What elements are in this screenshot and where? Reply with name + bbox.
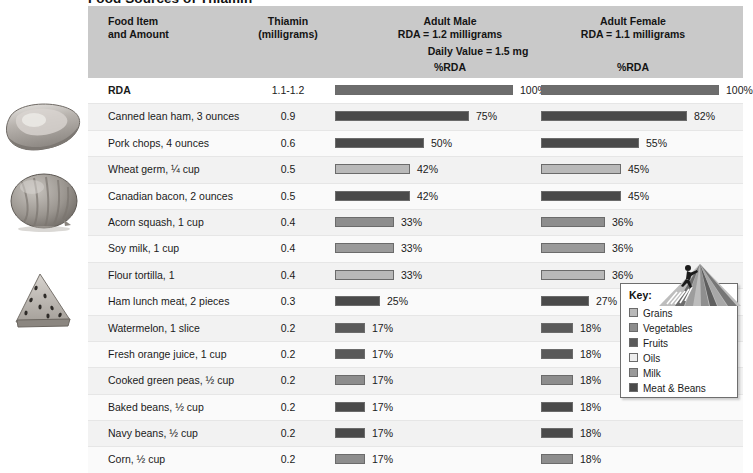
header-food-item-line2: and Amount xyxy=(108,28,169,40)
cell-male-rda: 17% xyxy=(335,342,535,367)
header-adult-female: Adult Female RDA = 1.1 milligrams xyxy=(528,15,738,40)
legend-label: Vegetables xyxy=(643,321,693,336)
pork-chop-image xyxy=(4,100,84,156)
cell-female-rda: 45% xyxy=(541,157,741,182)
legend-swatch-icon xyxy=(629,353,638,362)
bar-male xyxy=(335,217,394,227)
cell-thiamin-mg: 0.5 xyxy=(228,157,348,182)
legend-title: Key: xyxy=(629,289,652,301)
bar-female xyxy=(541,270,605,280)
header-adult-male-line2: RDA = 1.2 milligrams xyxy=(398,28,502,40)
cell-thiamin-mg: 1.1-1.2 xyxy=(228,78,348,103)
cell-food-item: Acorn squash, 1 cup xyxy=(108,210,204,235)
cell-food-item: Corn, ½ cup xyxy=(108,447,165,472)
cell-female-rda: 36% xyxy=(541,210,741,235)
header-daily-value: Daily Value = 1.5 mg xyxy=(263,45,693,58)
pct-male: 17% xyxy=(372,368,393,393)
pct-female: 18% xyxy=(580,316,601,341)
cell-food-item: RDA xyxy=(108,78,131,103)
cell-thiamin-mg: 0.2 xyxy=(228,316,348,341)
cell-male-rda: 17% xyxy=(335,421,535,446)
pct-male: 17% xyxy=(372,421,393,446)
cell-food-item: Wheat germ, ¼ cup xyxy=(108,157,200,182)
cell-male-rda: 33% xyxy=(335,236,535,261)
bar-female xyxy=(541,296,589,306)
cell-thiamin-mg: 0.4 xyxy=(228,236,348,261)
table-row: Canned lean ham, 3 ounces0.975%82% xyxy=(88,103,743,129)
pct-male: 17% xyxy=(372,342,393,367)
pct-female: 18% xyxy=(580,342,601,367)
bar-male xyxy=(335,296,380,306)
pct-female: 45% xyxy=(628,157,649,182)
cell-male-rda: 42% xyxy=(335,157,535,182)
bar-female xyxy=(541,349,573,359)
legend-swatch-icon xyxy=(629,383,638,392)
bar-female xyxy=(541,217,605,227)
cell-male-rda: 17% xyxy=(335,395,535,420)
mypyramid-logo-icon xyxy=(657,262,743,310)
cell-male-rda: 33% xyxy=(335,263,535,288)
legend-swatch-icon xyxy=(629,308,638,317)
header-food-item: Food Item and Amount xyxy=(108,15,238,40)
header-adult-male: Adult Male RDA = 1.2 milligrams xyxy=(350,15,550,40)
bar-female xyxy=(541,375,573,385)
pct-male: 17% xyxy=(372,447,393,472)
bar-male xyxy=(335,164,410,174)
cell-thiamin-mg: 0.2 xyxy=(228,368,348,393)
cell-thiamin-mg: 0.2 xyxy=(228,342,348,367)
table-row: Soy milk, 1 cup0.433%36% xyxy=(88,235,743,261)
acorn-squash-image xyxy=(4,170,84,232)
bar-female xyxy=(541,164,621,174)
header-adult-male-line1: Adult Male xyxy=(423,15,476,27)
header-thiamin: Thiamin (milligrams) xyxy=(228,15,348,40)
food-photo-column xyxy=(0,96,92,328)
table-header: Food Item and Amount Thiamin (milligrams… xyxy=(88,6,743,78)
pct-male: 42% xyxy=(417,157,438,182)
cell-thiamin-mg: 0.4 xyxy=(228,210,348,235)
bar-male xyxy=(335,454,365,464)
bar-female xyxy=(541,138,639,148)
pct-male: 33% xyxy=(401,236,422,261)
pct-male: 75% xyxy=(476,104,497,129)
header-thiamin-line2: (milligrams) xyxy=(258,28,318,40)
table-row: Corn, ½ cup0.217%18% xyxy=(88,446,743,472)
pct-female: 18% xyxy=(580,447,601,472)
cell-male-rda: 100% xyxy=(335,78,535,103)
legend-swatch-icon xyxy=(629,338,638,347)
cell-food-item: Fresh orange juice, 1 cup xyxy=(108,342,226,367)
cell-male-rda: 50% xyxy=(335,131,535,156)
table-body: RDA1.1-1.2100%100%Canned lean ham, 3 oun… xyxy=(88,78,743,473)
cell-thiamin-mg: 0.3 xyxy=(228,289,348,314)
pct-male: 33% xyxy=(401,210,422,235)
bar-male xyxy=(335,138,424,148)
bar-male xyxy=(335,270,394,280)
bar-female xyxy=(541,191,621,201)
cell-male-rda: 42% xyxy=(335,184,535,209)
cell-male-rda: 75% xyxy=(335,104,535,129)
cell-food-item: Ham lunch meat, 2 pieces xyxy=(108,289,229,314)
cell-food-item: Flour tortilla, 1 xyxy=(108,263,175,288)
bar-female xyxy=(541,323,573,333)
bar-female xyxy=(541,111,687,121)
pct-female: 45% xyxy=(628,184,649,209)
pct-male: 17% xyxy=(372,316,393,341)
cell-female-rda: 82% xyxy=(541,104,741,129)
cell-thiamin-mg: 0.9 xyxy=(228,104,348,129)
watermelon-slice-image xyxy=(4,272,84,330)
pct-male: 50% xyxy=(431,131,452,156)
pct-female: 18% xyxy=(580,421,601,446)
bar-male xyxy=(335,85,513,95)
cell-male-rda: 33% xyxy=(335,210,535,235)
cell-food-item: Watermelon, 1 slice xyxy=(108,316,200,341)
cell-female-rda: 55% xyxy=(541,131,741,156)
bar-male xyxy=(335,111,469,121)
header-food-item-line1: Food Item xyxy=(108,15,158,27)
pct-male: 33% xyxy=(401,263,422,288)
cell-female-rda: 36% xyxy=(541,236,741,261)
table-row: RDA1.1-1.2100%100% xyxy=(88,78,743,103)
table-row: Pork chops, 4 ounces0.650%55% xyxy=(88,130,743,156)
cell-male-rda: 17% xyxy=(335,368,535,393)
legend-label: Milk xyxy=(643,366,661,381)
cell-female-rda: 18% xyxy=(541,395,741,420)
